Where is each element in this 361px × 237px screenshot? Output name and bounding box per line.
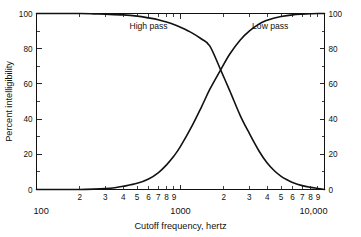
x-decade-label: 1000 — [170, 206, 190, 216]
y-tick-label-right: 60 — [329, 80, 339, 89]
plot-frame — [37, 14, 325, 190]
x-tick-label-minor: 5 — [279, 193, 284, 202]
x-tick-label-minor: 8 — [308, 193, 313, 202]
x-tick-label-minor: 9 — [316, 193, 321, 202]
x-tick-label-minor: 2 — [222, 193, 227, 202]
curve-label-high-pass: High pass — [129, 21, 167, 31]
y-tick-label-right: 0 — [329, 186, 334, 195]
x-tick-label-minor: 4 — [265, 193, 270, 202]
y-tick-label-left: 80 — [23, 45, 33, 54]
x-tick-label-minor: 3 — [247, 193, 252, 202]
curve-label-low-pass: Low pass — [252, 21, 288, 31]
y-tick-label-right: 100 — [329, 10, 343, 19]
y-tick-label-right: 40 — [329, 115, 339, 124]
x-tick-label-minor: 5 — [135, 193, 140, 202]
x-axis-title: Cutoff frequency, hertz — [134, 221, 226, 231]
y-tick-label-right: 80 — [329, 45, 339, 54]
x-tick-label-minor: 2 — [78, 193, 83, 202]
x-tick-label-minor: 6 — [146, 193, 151, 202]
x-tick-label-minor: 8 — [164, 193, 169, 202]
chart-page: 0020204040606080801001002345678923456789… — [0, 0, 361, 237]
y-tick-label-left: 100 — [19, 10, 33, 19]
intelligibility-chart: 0020204040606080801001002345678923456789… — [0, 0, 361, 237]
y-tick-label-left: 60 — [23, 80, 33, 89]
y-axis-title: Percent intelligibility — [4, 61, 14, 142]
y-tick-label-left: 0 — [28, 186, 33, 195]
y-tick-label-left: 40 — [23, 115, 33, 124]
x-tick-label-minor: 7 — [300, 193, 305, 202]
x-decade-label: 10,000 — [299, 206, 327, 216]
curve-high-pass — [37, 13, 325, 189]
y-tick-label-left: 20 — [23, 150, 33, 159]
x-decade-label: 100 — [34, 206, 49, 216]
x-tick-label-minor: 4 — [121, 193, 126, 202]
x-tick-label-minor: 6 — [290, 193, 295, 202]
curve-low-pass — [37, 13, 325, 189]
x-tick-label-minor: 3 — [103, 193, 108, 202]
y-tick-label-right: 20 — [329, 150, 339, 159]
x-tick-label-minor: 9 — [172, 193, 177, 202]
x-tick-label-minor: 7 — [156, 193, 161, 202]
